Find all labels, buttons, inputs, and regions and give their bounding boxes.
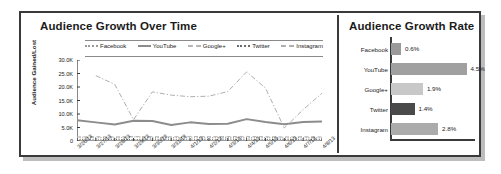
y-tick-label: 20.0K bbox=[58, 84, 73, 90]
bar-track: 1.9% bbox=[391, 79, 475, 99]
y-tick-label: 15.0K bbox=[58, 98, 73, 104]
x-tick-label: 4/8/13 bbox=[321, 135, 336, 149]
screenshot-root: Audience Growth Over Time FacebookYouTub… bbox=[0, 0, 501, 174]
x-axis-ticks: 3/26/133/27/133/28/133/29/133/30/133/31/… bbox=[77, 143, 322, 173]
legend-item-googleplus[interactable]: Google+ bbox=[188, 43, 226, 49]
bar-fill bbox=[391, 83, 423, 95]
y-axis-ticks: 05.0K10.0K15.0K20.0K25.0K30.0K bbox=[45, 13, 73, 155]
bar-category-label: YouTube bbox=[347, 66, 391, 73]
dashboard-panel: Audience Growth Over Time FacebookYouTub… bbox=[19, 11, 481, 157]
legend-item-label: Instagram bbox=[296, 43, 323, 49]
legend-item-label: Facebook bbox=[100, 43, 126, 49]
y-tick-label: 25.0K bbox=[58, 71, 73, 77]
line-chart-legend: FacebookYouTubeGoogle+TwitterInstagram bbox=[85, 43, 323, 49]
bar-row[interactable]: YouTube4.5% bbox=[347, 59, 475, 79]
bar-value-label: 4.5% bbox=[471, 63, 485, 75]
y-tick-label: 30.0K bbox=[58, 57, 73, 63]
y-axis-label: Audience Gained/Lost bbox=[30, 37, 37, 109]
line-series-instagram bbox=[96, 72, 322, 128]
legend-swatch-icon bbox=[138, 45, 151, 47]
bar-fill bbox=[391, 63, 467, 75]
bar-chart-rows: Facebook0.6%YouTube4.5%Google+1.9%Twitte… bbox=[347, 39, 475, 139]
bar-row[interactable]: Facebook0.6% bbox=[347, 39, 475, 59]
bar-chart-baseline bbox=[390, 139, 475, 141]
bar-category-label: Facebook bbox=[347, 46, 391, 53]
bar-track: 4.5% bbox=[391, 59, 475, 79]
bar-value-label: 1.9% bbox=[427, 83, 441, 95]
bar-row[interactable]: Google+1.9% bbox=[347, 79, 475, 99]
legend-item-label: Google+ bbox=[203, 43, 226, 49]
bar-category-label: Google+ bbox=[347, 86, 391, 93]
y-tick-label: 0 bbox=[70, 138, 73, 144]
legend-item-facebook[interactable]: Facebook bbox=[85, 43, 126, 49]
bar-category-label: Instagram bbox=[347, 126, 391, 133]
bar-fill bbox=[391, 103, 415, 115]
bar-value-label: 2.8% bbox=[442, 123, 456, 135]
bar-track: 0.6% bbox=[391, 39, 475, 59]
bar-value-label: 0.6% bbox=[405, 43, 419, 55]
bar-row[interactable]: Instagram2.8% bbox=[347, 119, 475, 139]
bar-row[interactable]: Twitter1.4% bbox=[347, 99, 475, 119]
bar-fill bbox=[391, 123, 438, 135]
legend-item-twitter[interactable]: Twitter bbox=[237, 43, 270, 49]
bar-fill bbox=[391, 43, 401, 55]
bar-category-label: Twitter bbox=[347, 106, 391, 113]
y-tick-label: 5.0K bbox=[61, 125, 73, 131]
bar-track: 1.4% bbox=[391, 99, 475, 119]
line-series-youtube bbox=[77, 119, 322, 125]
bar-value-label: 1.4% bbox=[419, 103, 433, 115]
line-chart-plot bbox=[77, 60, 322, 141]
bar-chart-pane: Audience Growth Rate Facebook0.6%YouTube… bbox=[339, 13, 479, 155]
legend-swatch-icon bbox=[85, 45, 98, 47]
legend-swatch-icon bbox=[281, 45, 294, 47]
y-tick-label: 10.0K bbox=[58, 111, 73, 117]
legend-item-instagram[interactable]: Instagram bbox=[281, 43, 323, 49]
legend-item-youtube[interactable]: YouTube bbox=[138, 43, 177, 49]
legend-swatch-icon bbox=[237, 45, 250, 47]
line-chart-pane: Audience Growth Over Time FacebookYouTub… bbox=[21, 13, 339, 155]
legend-swatch-icon bbox=[188, 45, 201, 47]
legend-item-label: YouTube bbox=[153, 43, 177, 49]
bar-chart-title: Audience Growth Rate bbox=[349, 20, 474, 32]
bar-track: 2.8% bbox=[391, 119, 475, 139]
legend-item-label: Twitter bbox=[252, 43, 270, 49]
